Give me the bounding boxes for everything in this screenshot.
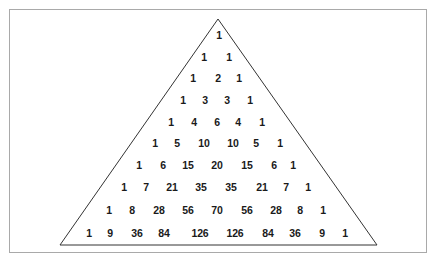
triangle-entry: 9 [107, 227, 113, 239]
triangle-entry: 28 [270, 204, 281, 216]
triangle-entry: 1 [236, 72, 242, 84]
triangle-entry: 4 [235, 116, 241, 128]
triangle-entry: 1 [86, 227, 92, 239]
triangle-entry: 1 [320, 204, 326, 216]
triangle-entry: 1 [121, 181, 127, 193]
triangle-entry: 3 [202, 94, 208, 106]
triangle-entry: 1 [259, 116, 265, 128]
triangle-entry: 1 [168, 116, 174, 128]
triangle-entry: 28 [153, 204, 164, 216]
triangle-entry: 1 [216, 29, 222, 41]
triangle-entry: 15 [182, 159, 193, 171]
triangle-entry: 1 [226, 51, 232, 63]
triangle-entry: 8 [129, 204, 135, 216]
triangle-entry: 35 [195, 181, 206, 193]
triangle-entry: 36 [289, 227, 300, 239]
triangle-entry: 1 [201, 51, 207, 63]
triangle-entry: 6 [271, 159, 277, 171]
triangle-entry: 1 [190, 72, 196, 84]
triangle-entry: 7 [143, 181, 149, 193]
triangle-entry: 1 [247, 94, 253, 106]
triangle-entry: 36 [131, 227, 142, 239]
triangle-entry: 21 [256, 181, 267, 193]
triangle-entry: 1 [136, 159, 142, 171]
triangle-entry: 126 [227, 227, 244, 239]
triangle-entry: 35 [225, 181, 236, 193]
triangle-entry: 9 [319, 227, 325, 239]
triangle-entry: 84 [262, 227, 273, 239]
triangle-entry: 5 [253, 137, 259, 149]
triangle-entry: 7 [283, 181, 289, 193]
triangle-entry: 6 [160, 159, 166, 171]
triangle-entry: 126 [192, 227, 209, 239]
triangle-entry: 3 [224, 94, 230, 106]
triangle-entry: 84 [158, 227, 169, 239]
triangle-entry: 1 [152, 137, 158, 149]
triangle-entry: 1 [305, 181, 311, 193]
triangle-entry: 1 [342, 227, 348, 239]
triangle-entry: 8 [297, 204, 303, 216]
triangle-entry: 10 [198, 137, 209, 149]
triangle-entry: 21 [166, 181, 177, 193]
triangle-entry: 1 [290, 159, 296, 171]
triangle-entry: 1 [277, 137, 283, 149]
triangle-entry: 10 [227, 137, 238, 149]
triangle-entry: 6 [214, 116, 220, 128]
triangle-entry: 4 [191, 116, 197, 128]
triangle-entry: 56 [182, 204, 193, 216]
triangle-entry: 1 [106, 204, 112, 216]
triangle-entry: 1 [180, 94, 186, 106]
triangle-entry: 2 [215, 72, 221, 84]
triangle-entry: 15 [241, 159, 252, 171]
triangle-entry: 5 [174, 137, 180, 149]
triangle-entry: 70 [211, 204, 222, 216]
triangle-entry: 20 [211, 159, 222, 171]
triangle-entry: 56 [241, 204, 252, 216]
